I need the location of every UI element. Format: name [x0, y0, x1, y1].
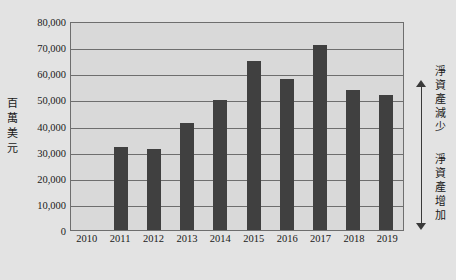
bar-2015 — [247, 61, 261, 230]
bar-slot — [137, 23, 170, 230]
bar-2017 — [313, 45, 327, 230]
bar-slot — [303, 23, 336, 230]
bar-2016 — [280, 79, 294, 230]
bar-series — [71, 23, 403, 230]
net-assets-decrease-char-4: 減 — [432, 106, 448, 120]
x-axis-tick-label: 2018 — [337, 233, 370, 244]
x-axis-tick-label: 2016 — [270, 233, 303, 244]
y-axis-tick-label: 0 — [16, 226, 66, 237]
bar-2019 — [379, 95, 393, 230]
net-assets-decrease-char-2: 資 — [432, 78, 448, 92]
x-axis-tick-label: 2010 — [70, 233, 103, 244]
x-axis-tick-label: 2019 — [371, 233, 404, 244]
net-assets-decrease-char-5: 少 — [432, 120, 448, 134]
plot-area — [70, 22, 404, 231]
bar-slot — [237, 23, 270, 230]
y-axis-tick-label: 30,000 — [16, 147, 66, 158]
bar-2011 — [114, 147, 128, 230]
bar-slot — [171, 23, 204, 230]
y-axis-tick-label: 10,000 — [16, 199, 66, 210]
double-arrow-icon — [416, 80, 427, 230]
bar-2013 — [180, 123, 194, 230]
arrow-line — [421, 86, 422, 224]
bar-slot — [204, 23, 237, 230]
net-assets-increase-char-3: 產 — [432, 180, 448, 194]
y-axis-tick-label: 20,000 — [16, 173, 66, 184]
bar-slot — [370, 23, 403, 230]
net-assets-decrease-char-3: 產 — [432, 92, 448, 106]
y-axis-tick-label: 70,000 — [16, 43, 66, 54]
y-axis-tick-label: 80,000 — [16, 17, 66, 28]
x-axis-tick-labels: 2010201120122013201420152016201720182019 — [70, 233, 404, 244]
bar-2014 — [213, 100, 227, 230]
y-axis-tick-labels: 010,00020,00030,00040,00050,00060,00070,… — [16, 22, 66, 231]
net-assets-decrease-char-1: 淨 — [432, 64, 448, 78]
arrow-down-icon — [416, 223, 426, 230]
bar-slot — [337, 23, 370, 230]
bar-2018 — [346, 90, 360, 230]
bar-chart: 百 萬 美 元 010,00020,00030,00040,00050,0006… — [0, 0, 456, 280]
y-axis-tick-label: 50,000 — [16, 95, 66, 106]
net-assets-increase-char-1: 淨 — [432, 152, 448, 166]
y-axis-tick-label: 40,000 — [16, 121, 66, 132]
net-assets-increase-label: 淨資產增加 — [432, 152, 448, 222]
x-axis-tick-label: 2014 — [204, 233, 237, 244]
x-axis-tick-label: 2013 — [170, 233, 203, 244]
x-axis-tick-label: 2012 — [137, 233, 170, 244]
bar-slot — [104, 23, 137, 230]
x-axis-tick-label: 2017 — [304, 233, 337, 244]
x-axis-tick-label: 2015 — [237, 233, 270, 244]
bar-slot — [71, 23, 104, 230]
y-axis-tick-label: 60,000 — [16, 69, 66, 80]
x-axis-tick-label: 2011 — [103, 233, 136, 244]
net-assets-increase-char-2: 資 — [432, 166, 448, 180]
net-assets-annotation: 淨資產減少 淨資產增加 — [408, 22, 456, 237]
net-assets-decrease-label: 淨資產減少 — [432, 64, 448, 134]
bar-2012 — [147, 149, 161, 231]
net-assets-increase-char-4: 增 — [432, 194, 448, 208]
net-assets-increase-char-5: 加 — [432, 208, 448, 222]
bar-slot — [270, 23, 303, 230]
